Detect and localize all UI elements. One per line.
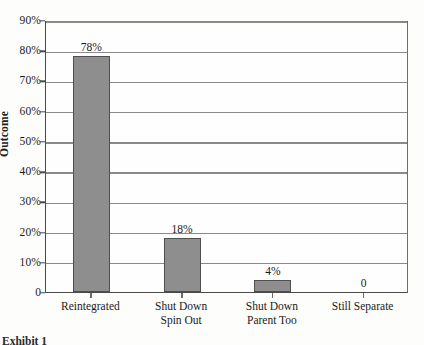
y-tick-label: 80% [1, 45, 41, 57]
y-tick-label: 40% [1, 166, 41, 178]
bar-value-label: 78% [61, 42, 121, 54]
bar-value-label: 4% [243, 266, 303, 278]
bar [254, 280, 291, 292]
x-category-label: Still Separate [303, 300, 423, 314]
y-tick-label: 50% [1, 136, 41, 148]
x-tick-mark [363, 293, 364, 298]
plot-area: 78%18%4%0 [45, 21, 408, 293]
y-axis-title: Outcome [0, 111, 10, 157]
x-tick-mark [90, 293, 91, 298]
y-tick-label: 0 [1, 287, 41, 299]
x-tick-mark [181, 293, 182, 298]
bar [164, 238, 201, 292]
bar-value-label: 18% [152, 224, 212, 236]
y-tick-label: 60% [1, 106, 41, 118]
y-tick-label: 10% [1, 257, 41, 269]
gridline [46, 21, 407, 22]
y-tick-label: 30% [1, 197, 41, 209]
figure-caption: Exhibit 1 [2, 335, 47, 345]
bar-value-label: 0 [334, 278, 394, 290]
bar [73, 56, 110, 292]
y-tick-label: 20% [1, 227, 41, 239]
y-tick-label: 90% [1, 15, 41, 27]
y-tick-label: 70% [1, 76, 41, 88]
x-tick-mark [272, 293, 273, 298]
